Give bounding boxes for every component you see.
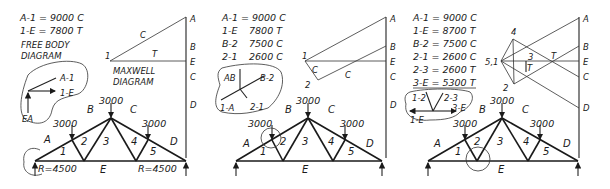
- maxwell-point-2: 2: [503, 83, 508, 93]
- maxwell-label-b: B: [390, 42, 396, 52]
- panel-num-3: 3: [302, 136, 308, 147]
- fbd-label-ea: EA: [22, 114, 33, 124]
- region-b: B: [479, 104, 486, 115]
- panel-num-3: 3: [497, 136, 503, 147]
- force-arrow-a1: [28, 78, 56, 91]
- load-label-left: 3000: [53, 118, 77, 129]
- maxwell-point-3: 3: [528, 52, 533, 62]
- load-label-right: 3000: [530, 118, 554, 129]
- region-a: A: [242, 138, 250, 149]
- panel-3: A-1 = 9000 C 1-E = 8700 T B-2 = 7500 C 2…: [405, 12, 590, 176]
- maxwell-label-d: D: [190, 100, 197, 110]
- region-e: E: [100, 164, 107, 175]
- maxwell-label-a: A: [389, 14, 396, 24]
- panel-num-4: 4: [131, 136, 137, 147]
- reaction-right: R=4500: [138, 163, 177, 174]
- region-b: B: [285, 104, 292, 115]
- maxwell-label-tension: T: [152, 49, 158, 59]
- region-e: E: [302, 164, 309, 175]
- region-b: B: [87, 104, 94, 115]
- panel-num-4: 4: [328, 136, 334, 147]
- truss-analysis-diagram: A-1 = 9000 C 1-E = 7800 T FREE BODY DIAG…: [0, 0, 610, 189]
- region-a: A: [43, 134, 51, 145]
- maxwell-label-e: E: [390, 57, 396, 67]
- maxwell-label-compression: C: [140, 30, 146, 40]
- load-label-top: 3000: [296, 95, 320, 106]
- load-label-top: 3000: [490, 95, 514, 106]
- maxwell-label-t2: T: [551, 51, 557, 61]
- panel-num-3: 3: [103, 136, 109, 147]
- panel-num-1: 1: [260, 146, 266, 157]
- panel-num-2: 2: [81, 136, 87, 147]
- joint-circle: [261, 128, 281, 148]
- region-d: D: [563, 138, 571, 149]
- maxwell-point-1: 1: [105, 51, 110, 61]
- region-e: E: [498, 164, 505, 175]
- maxwell-label-b: B: [190, 42, 196, 52]
- fbd-label-a1: A-1: [59, 73, 74, 83]
- maxwell-label-t1: T: [527, 63, 533, 73]
- panel-num-1: 1: [455, 146, 461, 157]
- maxwell-label-b: B: [583, 42, 589, 52]
- load-label-left: 3000: [248, 118, 272, 129]
- panel-num-5: 5: [348, 146, 354, 157]
- result-a1: A-1 = 9000 C: [412, 12, 477, 23]
- fbd-label-1e: 1-E: [410, 115, 424, 125]
- result-1e: 1-E = 7800 T: [20, 25, 84, 36]
- panel-2: A-1 = 9000 C 1-E 7800 T B-2 7500 C 2-1 2…: [216, 12, 397, 176]
- maxwell-label-d: D: [390, 100, 397, 110]
- maxwell-label-a: A: [189, 14, 196, 24]
- panel-num-5: 5: [543, 146, 549, 157]
- load-label-right: 3000: [340, 118, 364, 129]
- result-1e-value: 7800 T: [249, 25, 283, 36]
- region-a: A: [433, 138, 441, 149]
- maxwell-member-c: [110, 17, 186, 61]
- region-d: D: [366, 138, 374, 149]
- result-21: 2-1 = 2600 C: [413, 51, 477, 62]
- result-21-label: 2-1: [222, 51, 238, 62]
- fbd-label-12: 1-2: [412, 93, 426, 103]
- panel-num-1: 1: [60, 146, 66, 157]
- load-label-right: 3000: [142, 118, 166, 129]
- fbd-label-1e: 1-E: [60, 88, 74, 98]
- maxwell-label-d: D: [583, 103, 590, 113]
- result-21-value: 2600 C: [249, 51, 283, 62]
- maxwell-label-a: A: [582, 14, 589, 24]
- result-b2-label: B-2: [222, 38, 238, 49]
- maxwell-point-51: 5,1: [485, 57, 499, 67]
- maxwell-point-1: 1: [302, 51, 307, 61]
- result-23: 2-3 = 2600 T: [413, 64, 477, 75]
- panel-1: A-1 = 9000 C 1-E = 7800 T FREE BODY DIAG…: [19, 12, 197, 176]
- maxwell-caption-2: DIAGRAM: [113, 77, 154, 87]
- panel-num-5: 5: [150, 146, 156, 157]
- region-d: D: [170, 136, 178, 147]
- fbd-label-23: 2-3: [444, 93, 458, 103]
- fbd-label-b2: B-2: [260, 73, 274, 83]
- maxwell-label-e: E: [583, 57, 589, 67]
- panel-num-4: 4: [523, 136, 529, 147]
- result-3e: 3-E = 5300 T: [413, 77, 477, 88]
- maxwell-point-2: 2: [305, 80, 310, 90]
- result-1e: 1-E = 8700 T: [413, 25, 477, 36]
- fbd-label-3e: 3-E: [452, 103, 466, 113]
- fbd-label-21: 2-1: [250, 102, 264, 112]
- maxwell-point-4: 4: [511, 27, 516, 37]
- result-b2-value: 7500 C: [249, 38, 283, 49]
- fbd-caption-2: DIAGRAM: [21, 51, 62, 61]
- maxwell-label-c: C: [583, 72, 589, 82]
- maxwell-label-c: C: [390, 72, 396, 82]
- load-label-top: 3000: [99, 95, 123, 106]
- maxwell-caption-1: MAXWELL: [113, 66, 155, 76]
- fbd-caption-1: FREE BODY: [21, 40, 70, 50]
- maxwell-label-c1: C: [312, 65, 318, 75]
- maxwell-label-c2: C: [345, 70, 351, 80]
- panel-num-2: 2: [474, 136, 480, 147]
- result-a1: A-1 = 9000 C: [221, 12, 286, 23]
- truss-2: [236, 103, 382, 176]
- fbd-label-ab: AB: [223, 73, 236, 83]
- panel-num-2: 2: [280, 136, 286, 147]
- region-c: C: [522, 104, 529, 115]
- reaction-left: R=4500: [38, 163, 77, 174]
- load-label-left: 3000: [453, 118, 477, 129]
- result-a1: A-1 = 9000 C: [19, 12, 84, 23]
